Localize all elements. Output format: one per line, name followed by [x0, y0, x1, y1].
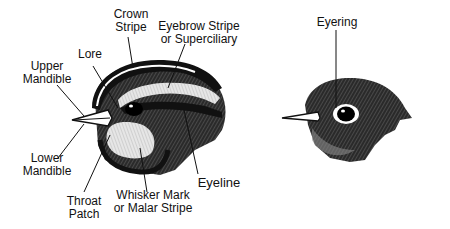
label-eyeline: Eyeline [196, 176, 242, 189]
label-eyebrow-stripe: Eyebrow Stripe or Superciliary [152, 20, 246, 46]
label-upper-mandible: Upper Mandible [18, 60, 76, 86]
label-whisker-mark: Whisker Mark or Malar Stripe [110, 189, 196, 215]
label-throat-patch: Throat Patch [62, 195, 106, 221]
label-line: Patch [62, 208, 106, 221]
label-line: Stripe [107, 21, 155, 34]
label-crown-stripe: Crown Stripe [107, 8, 155, 34]
label-line: Lore [75, 48, 105, 61]
label-lower-mandible: Lower Mandible [18, 152, 76, 178]
label-eyering: Eyering [312, 16, 362, 29]
label-line: or Superciliary [152, 33, 246, 46]
label-line: Mandible [18, 165, 76, 178]
right-bird-head [282, 78, 412, 162]
label-line: Eyering [312, 16, 362, 29]
label-line: Eyeline [196, 176, 242, 189]
label-lore: Lore [75, 48, 105, 61]
left-bird-head [72, 60, 226, 175]
label-line: Mandible [18, 73, 76, 86]
label-line: or Malar Stripe [110, 202, 196, 215]
